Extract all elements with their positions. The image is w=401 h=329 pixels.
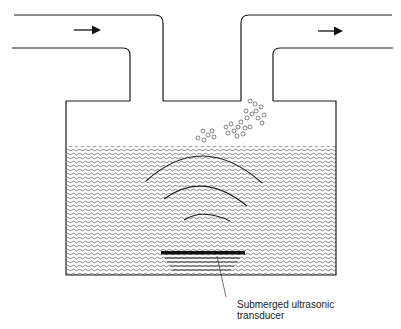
inlet-pipe-outer-wall [14, 15, 163, 101]
outlet-pipe-inner-wall [273, 48, 393, 101]
transducer-label: Submerged ultrasonic transducer [237, 299, 334, 321]
outlet-pipe-outer-wall [241, 15, 392, 101]
liquid-body [67, 146, 336, 275]
mist-droplets [196, 99, 266, 142]
inlet-flow-arrow [74, 26, 101, 35]
transducer-label-line1: Submerged ultrasonic [237, 299, 334, 310]
transducer-label-line2: transducer [237, 310, 284, 321]
nebulizer-diagram [0, 0, 401, 329]
inlet-pipe-inner-wall [12, 48, 130, 101]
outlet-flow-arrow [134, 27, 343, 36]
